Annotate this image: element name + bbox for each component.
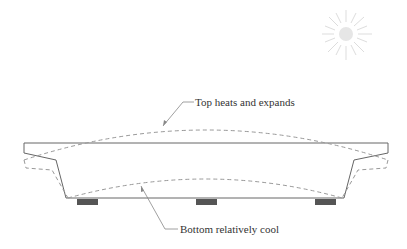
bottom-label: Bottom relatively cool	[180, 223, 279, 235]
bearing-left	[77, 199, 98, 205]
girder-outline	[24, 143, 388, 198]
top-label-arrowhead	[163, 120, 167, 126]
thermal-girder-diagram: Top heats and expands Bottom relatively …	[0, 0, 407, 249]
bearing-center	[196, 199, 217, 205]
bottom-label-arrowhead	[141, 186, 144, 192]
bearing-right	[315, 199, 336, 205]
sun-icon	[322, 10, 372, 60]
top-label-leader	[163, 102, 194, 126]
deformed-bottom-curve	[68, 179, 342, 198]
deformed-top-curve	[24, 130, 388, 160]
top-label: Top heats and expands	[195, 96, 295, 108]
bottom-label-leader	[141, 186, 178, 229]
